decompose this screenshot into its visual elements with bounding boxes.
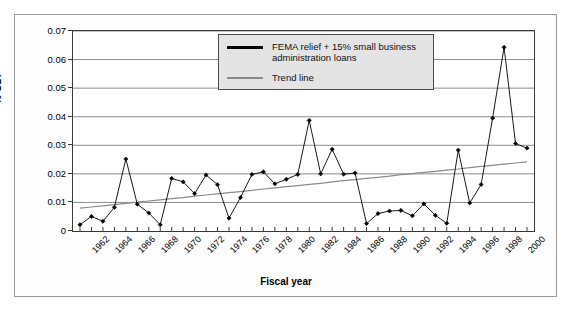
y-tick-label: 0.04 (26, 112, 66, 122)
y-tick-label: 0.01 (26, 197, 66, 207)
data-point-marker (342, 172, 346, 176)
data-point-marker (227, 216, 231, 220)
data-point-marker (387, 209, 391, 213)
trend-line-swatch (225, 72, 265, 84)
y-tick-label: 0.07 (26, 26, 66, 36)
data-point-marker (456, 148, 460, 152)
legend-item-series: FEMA relief + 15% small business adminis… (225, 41, 427, 63)
data-point-marker (284, 177, 288, 181)
data-point-marker (525, 146, 529, 150)
data-point-marker (353, 171, 357, 175)
data-point-marker (319, 172, 323, 176)
data-point-marker (330, 147, 334, 151)
y-axis-title: % GDP (0, 71, 3, 104)
data-point-marker (170, 176, 174, 180)
y-tick-label: 0.03 (26, 140, 66, 150)
legend-label-series: FEMA relief + 15% small business adminis… (272, 41, 427, 63)
data-point-marker (296, 172, 300, 176)
y-tick-label: 0 (26, 226, 66, 236)
data-point-marker (307, 118, 311, 122)
data-point-marker (479, 182, 483, 186)
data-point-marker (124, 157, 128, 161)
data-point-marker (468, 201, 472, 205)
trend-line-path (80, 162, 527, 208)
data-point-marker (399, 208, 403, 212)
data-point-marker (502, 45, 506, 49)
legend-label-trend: Trend line (272, 72, 314, 83)
chart-screenshot: % GDP 00.010.020.030.040.050.060.07 1962… (0, 0, 572, 312)
y-tick-label: 0.02 (26, 169, 66, 179)
legend-item-trend: Trend line (225, 72, 427, 84)
y-tick-label: 0.05 (26, 83, 66, 93)
data-point-marker (250, 172, 254, 176)
chart-legend: FEMA relief + 15% small business adminis… (218, 34, 434, 90)
y-tick-label: 0.06 (26, 55, 66, 65)
series-line-swatch (225, 41, 265, 53)
data-point-marker (238, 195, 242, 199)
x-axis-title: Fiscal year (0, 276, 572, 287)
